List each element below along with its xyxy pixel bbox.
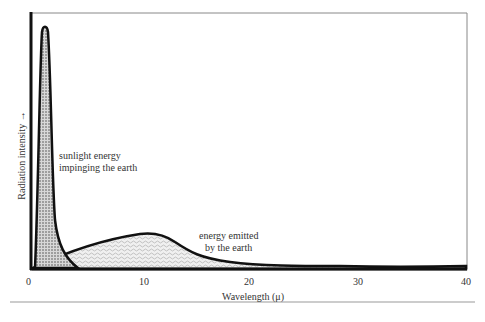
y-axis-label: Radiation intensity →: [16, 101, 27, 211]
x-axis-label: Wavelength (μ): [222, 291, 284, 303]
x-tick-20: 20: [244, 276, 254, 287]
earth-label-line2: by the earth: [205, 242, 252, 254]
x-tick-40: 40: [461, 276, 471, 287]
x-tick-10: 10: [139, 276, 149, 287]
x-tick-30: 30: [353, 276, 363, 287]
sunlight-label-line2: impinging the earth: [59, 162, 137, 174]
earth-label-line1: energy emitted: [199, 230, 259, 242]
sunlight-area: [35, 27, 78, 268]
x-tick-0: 0: [26, 276, 31, 287]
sunlight-label-line1: sunlight energy: [59, 150, 121, 162]
